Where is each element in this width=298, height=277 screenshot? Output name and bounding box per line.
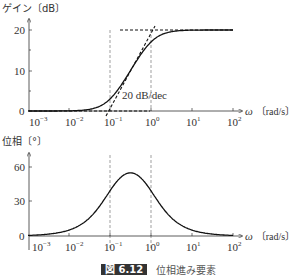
svg-text:102: 102 bbox=[227, 115, 242, 128]
gain-plot: ゲイン〔dB〕 20 10 0 20 dB/dec 10−3 10−2 bbox=[2, 3, 295, 128]
phase-tick-60: 60 bbox=[14, 161, 26, 173]
phase-x-axis-label: ω〔rad/s〕 bbox=[245, 230, 295, 242]
svg-text:10−3: 10−3 bbox=[32, 240, 51, 253]
svg-text:101: 101 bbox=[186, 115, 201, 128]
phase-tick-30: 30 bbox=[14, 195, 26, 207]
phase-curve bbox=[28, 173, 233, 236]
svg-text:101: 101 bbox=[186, 240, 201, 253]
svg-text:102: 102 bbox=[227, 240, 242, 253]
svg-text:10−3: 10−3 bbox=[29, 115, 48, 128]
svg-text:10−2: 10−2 bbox=[65, 240, 84, 253]
gain-y-axis-label: ゲイン〔dB〕 bbox=[2, 3, 65, 14]
slope-annotation: 20 dB/dec bbox=[122, 89, 167, 101]
phase-tick-0: 0 bbox=[19, 230, 25, 242]
gain-x-tick-labels: 10−3 10−2 10−1 100 101 102 bbox=[29, 115, 242, 128]
phase-x-tick-labels: 10−3 10−2 10−1 100 101 102 bbox=[32, 240, 242, 253]
gain-tick-10: 10 bbox=[14, 65, 26, 77]
gain-tick-20: 20 bbox=[14, 24, 26, 36]
gain-x-axis-label: ω〔rad/s〕 bbox=[245, 105, 295, 117]
phase-plot: 位相〔°〕 60 30 0 10−3 10−2 10−1 100 101 102… bbox=[2, 135, 295, 253]
svg-text:10−1: 10−1 bbox=[104, 115, 123, 128]
phase-y-axis-label: 位相〔°〕 bbox=[2, 135, 47, 147]
figure-caption: 図 6.12 位相進み要素 bbox=[101, 262, 216, 277]
svg-text:10−2: 10−2 bbox=[65, 115, 84, 128]
svg-text:100: 100 bbox=[145, 240, 160, 253]
svg-text:10−1: 10−1 bbox=[104, 240, 123, 253]
gain-tick-0: 0 bbox=[19, 105, 25, 117]
svg-text:100: 100 bbox=[145, 115, 160, 128]
figure-number: 図 6.12 bbox=[101, 264, 147, 275]
figure-title: 位相進み要素 bbox=[156, 262, 216, 277]
